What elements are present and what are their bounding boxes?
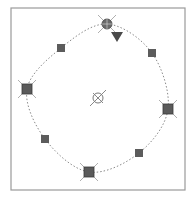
diagram-canvas bbox=[0, 0, 196, 201]
control-points-group bbox=[41, 44, 156, 157]
control-point-se[interactable] bbox=[135, 149, 143, 157]
node-bottom-icon[interactable] bbox=[80, 163, 98, 181]
triangle-marker-icon bbox=[111, 32, 123, 42]
control-point-nw[interactable] bbox=[57, 44, 65, 52]
node-right-icon[interactable] bbox=[159, 100, 177, 118]
control-point-ne[interactable] bbox=[148, 49, 156, 57]
center-point-icon bbox=[90, 90, 106, 106]
control-point-sw[interactable] bbox=[41, 135, 49, 143]
frame-border bbox=[11, 8, 185, 190]
